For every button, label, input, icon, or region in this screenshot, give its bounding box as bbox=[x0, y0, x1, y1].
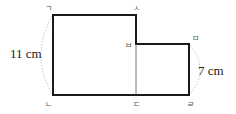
left-measure-arc bbox=[41, 16, 52, 94]
right-measurement: 7 cm bbox=[198, 63, 224, 78]
vertex-label-rieul: ㄹ bbox=[187, 100, 194, 109]
vertex-label-siot: ㅅ bbox=[133, 4, 140, 13]
left-measurement: 11 cm bbox=[10, 46, 42, 61]
vertex-label-nieun: ㄴ bbox=[45, 100, 52, 109]
vertex-label-digeut: ㄷ bbox=[133, 100, 140, 109]
diagram-canvas: ㄱ ㄴ ㄷ ㄹ ㅁ ㅂ ㅅ 11 cm 7 cm bbox=[0, 0, 236, 114]
vertex-label-mieum: ㅁ bbox=[192, 34, 199, 43]
vertex-label-giyeok: ㄱ bbox=[45, 4, 52, 13]
vertex-label-bieup: ㅂ bbox=[125, 41, 132, 50]
figure-outline bbox=[53, 15, 189, 95]
